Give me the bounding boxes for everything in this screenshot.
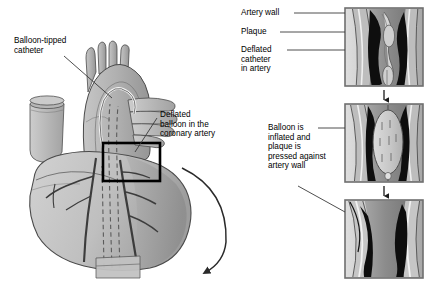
label-balloon-tipped-catheter: Balloon-tipped catheter [14, 36, 66, 55]
panel-deflated-catheter [345, 6, 423, 90]
label-balloon-inflated: Balloon is inflated and plaque is presse… [268, 123, 326, 171]
label-artery-wall: Artery wall [241, 8, 279, 18]
label-deflated-balloon-in-coronary-artery: Deflated balloon in the coronary artery [160, 110, 215, 139]
panel-inflated-balloon [345, 102, 423, 186]
vena-cava-stump [30, 96, 64, 162]
label-plaque: Plaque [241, 27, 267, 37]
label-deflated-catheter-in-artery: Deflated catheter in artery [241, 45, 272, 74]
inferior-vessel-stump [96, 256, 140, 278]
panel-artery-opened [345, 198, 423, 282]
